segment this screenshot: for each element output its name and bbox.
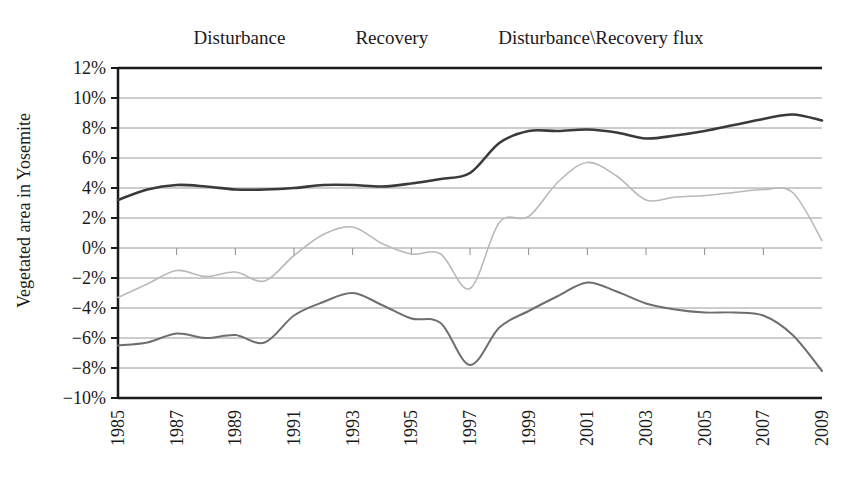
axis-lines-group <box>111 68 822 398</box>
x-tick-label: 1997 <box>460 410 480 446</box>
x-tick-label: 1999 <box>519 410 539 446</box>
y-tick-label: −6% <box>72 328 106 348</box>
series-line-recovery <box>118 114 822 200</box>
y-tick-label: 12% <box>73 58 106 78</box>
x-tick-label: 2005 <box>695 410 715 446</box>
chart-container: Disturbance Recovery Disturbance\Recover… <box>0 0 853 484</box>
y-tick-label: −2% <box>72 268 106 288</box>
y-tick-label: 4% <box>82 178 106 198</box>
gridlines-group <box>118 98 822 398</box>
plot-area: 12%10%8%6%4%2%0%−2%−4%−6%−8%−10% 1985198… <box>0 0 853 484</box>
y-tick-labels-group: 12%10%8%6%4%2%0%−2%−4%−6%−8%−10% <box>63 58 106 408</box>
series-line-disturbance <box>118 282 822 371</box>
x-tick-label: 1985 <box>108 410 128 446</box>
series-line-disturbance-recovery-flux <box>118 162 822 297</box>
y-tick-label: 6% <box>82 148 106 168</box>
x-tick-label: 2001 <box>577 410 597 446</box>
x-tick-label: 1989 <box>225 410 245 446</box>
x-tick-label: 2009 <box>812 410 832 446</box>
x-tick-label: 1993 <box>343 410 363 446</box>
x-tick-label: 2003 <box>636 410 656 446</box>
y-tick-label: −10% <box>63 388 106 408</box>
x-tick-label: 1987 <box>167 410 187 446</box>
x-tick-label: 1991 <box>284 410 304 446</box>
y-tick-label: 8% <box>82 118 106 138</box>
y-tick-label: 0% <box>82 238 106 258</box>
x-tick-label: 1995 <box>401 410 421 446</box>
y-tick-label: −4% <box>72 298 106 318</box>
x-tick-labels-group: 1985198719891991199319951997199920012003… <box>108 410 832 446</box>
x-tick-label: 2007 <box>753 410 773 446</box>
y-tick-label: −8% <box>72 358 106 378</box>
series-group <box>118 114 822 371</box>
y-tick-label: 10% <box>73 88 106 108</box>
y-tick-label: 2% <box>82 208 106 228</box>
